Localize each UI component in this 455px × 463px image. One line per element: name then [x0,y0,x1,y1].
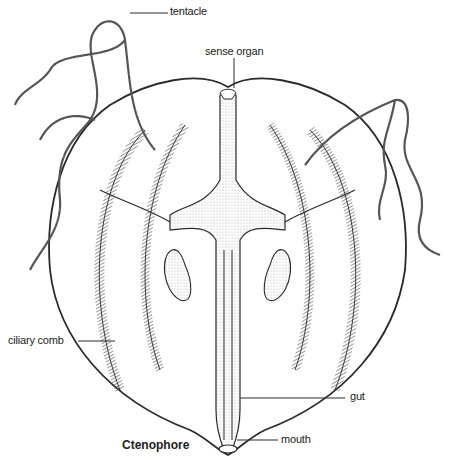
label-gut: gut [350,390,365,402]
label-sense-organ: sense organ [205,45,263,57]
diagram-title: Ctenophore [122,438,189,452]
ctenophore-diagram [0,0,455,463]
label-tentacle: tentacle [170,5,207,17]
label-mouth: mouth [281,433,311,445]
label-ciliary-comb: ciliary comb [8,334,64,346]
tentacle-right [305,100,440,255]
mouth [219,445,237,453]
